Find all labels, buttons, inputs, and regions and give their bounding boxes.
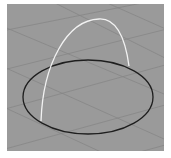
ground-grid <box>7 4 164 151</box>
viewport-canvas[interactable] <box>7 4 164 151</box>
3d-viewport[interactable]: 3D perspective viewport <box>7 4 164 151</box>
arc-curve[interactable] <box>41 19 129 121</box>
